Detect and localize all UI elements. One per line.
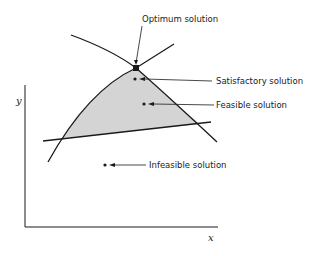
feasible-region [62,68,200,138]
optimum-label: Optimum solution [142,14,218,24]
infeasible-label: Infeasible solution [149,160,226,170]
infeasible-point [103,163,106,166]
optimum-point [133,65,139,71]
x-axis-label: x [208,232,214,243]
arrowhead-icon [109,163,115,167]
feasible-point [142,102,145,105]
feasible-region-diagram: y x Optimum solution Satisfactory soluti… [0,0,324,256]
optimum-leader [136,26,142,63]
satisfactory-point [133,77,136,80]
arrowhead-icon [134,60,138,65]
feasible-label: Feasible solution [216,100,287,110]
satisfactory-label: Satisfactory solution [216,76,303,86]
satisfactory-leader [145,79,212,81]
y-axis-label: y [15,95,22,106]
